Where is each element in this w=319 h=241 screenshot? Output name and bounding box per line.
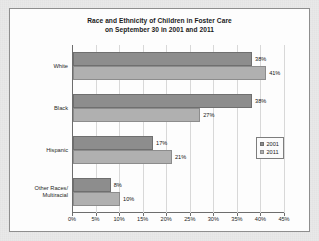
bar-group: Black38%27% (73, 87, 284, 129)
x-tick-label: 45% (278, 216, 289, 222)
x-tick-label: 40% (255, 216, 266, 222)
legend-item-2011[interactable]: 2011 (260, 148, 279, 156)
bar-row: 17% (73, 136, 285, 150)
chart-title-line-2: on September 30 in 2001 and 2011 (10, 26, 309, 35)
category-label: Other Races/Multiracial (34, 185, 68, 199)
bar-2011-hispanic[interactable] (73, 150, 172, 164)
x-tick-label: 10% (114, 216, 125, 222)
bar-value-label: 38% (255, 56, 266, 62)
x-tick-label: 0% (68, 216, 76, 222)
bar-2001-white[interactable] (73, 52, 252, 66)
x-tick-label: 35% (231, 216, 242, 222)
chart-legend[interactable]: 20012011 (256, 137, 284, 159)
chart-title: Race and Ethnicity of Children in Foster… (10, 17, 309, 34)
bar-2011-white[interactable] (73, 66, 266, 80)
bar-value-label: 17% (156, 140, 167, 146)
category-label: Black (54, 105, 68, 112)
bar-value-label: 38% (255, 98, 266, 104)
bar-group: Hispanic17%21% (73, 129, 284, 171)
x-tick-label: 5% (92, 216, 100, 222)
bar-value-label: 8% (114, 182, 122, 188)
bar-value-label: 27% (203, 112, 214, 118)
legend-swatch-icon (260, 142, 264, 146)
bar-value-label: 10% (123, 196, 134, 202)
plot-area: 0%5%10%15%20%25%30%35%40%45% White38%41%… (72, 45, 284, 213)
category-label: Hispanic (46, 147, 68, 154)
chart-panel: Race and Ethnicity of Children in Foster… (9, 8, 310, 232)
chart-title-line-1: Race and Ethnicity of Children in Foster… (87, 17, 232, 24)
legend-label: 2001 (267, 141, 279, 147)
legend-item-2001[interactable]: 2001 (260, 140, 279, 148)
bar-value-label: 41% (269, 70, 280, 76)
bar-value-label: 21% (175, 154, 186, 160)
legend-label: 2011 (267, 149, 279, 155)
bar-group: Other Races/Multiracial8%10% (73, 171, 284, 213)
bar-2001-other-races-multiracial[interactable] (73, 178, 111, 192)
bar-row: 8% (73, 178, 285, 192)
x-tick-label: 15% (137, 216, 148, 222)
bar-row: 38% (73, 94, 285, 108)
bar-2011-other-races-multiracial[interactable] (73, 192, 120, 206)
bar-row: 38% (73, 52, 285, 66)
category-label: White (53, 63, 68, 70)
x-tick-label: 30% (208, 216, 219, 222)
bar-row: 41% (73, 66, 285, 80)
bar-2011-black[interactable] (73, 108, 200, 122)
bar-row: 10% (73, 192, 285, 206)
bar-group: White38%41% (73, 45, 284, 87)
page-background: Race and Ethnicity of Children in Foster… (0, 0, 319, 241)
legend-swatch-icon (260, 150, 264, 154)
x-tick-label: 25% (184, 216, 195, 222)
bar-2001-hispanic[interactable] (73, 136, 153, 150)
bar-row: 21% (73, 150, 285, 164)
bar-2001-black[interactable] (73, 94, 252, 108)
bar-row: 27% (73, 108, 285, 122)
x-tick-label: 20% (161, 216, 172, 222)
